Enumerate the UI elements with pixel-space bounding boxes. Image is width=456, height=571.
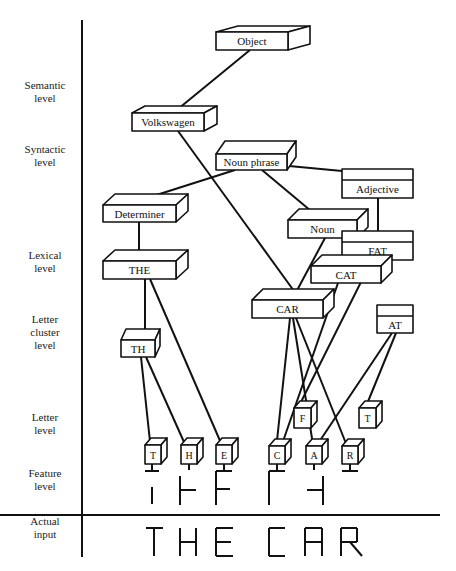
node-label: F <box>300 413 306 424</box>
node-label: CAT <box>336 269 357 281</box>
input-letter-H <box>180 528 196 556</box>
level-label-line: Lexical <box>5 249 85 262</box>
node-label: TH <box>131 343 146 355</box>
node-label: H <box>185 450 192 461</box>
level-label-line: Actual <box>5 515 85 528</box>
node-the: THE <box>103 250 188 279</box>
node-label: Determiner <box>114 208 164 220</box>
node-label: E <box>221 450 227 461</box>
level-label-line: input <box>5 528 85 541</box>
input-letter-R <box>341 528 362 556</box>
node-label: T <box>150 450 156 461</box>
node-cat: CAT <box>311 255 392 283</box>
level-label-syntactic: Syntacticlevel <box>5 143 85 169</box>
node-label: R <box>347 450 354 461</box>
connection-line <box>141 357 151 451</box>
feature-C <box>269 471 285 505</box>
level-label-letter: Letterlevel <box>5 411 85 437</box>
node-label: Noun phrase <box>224 156 280 168</box>
level-label-line: level <box>5 480 85 493</box>
node-label: A <box>310 450 318 461</box>
node-volkswagen: Volkswagen <box>132 106 217 131</box>
input-letter-A <box>305 528 322 556</box>
actual-input-letters <box>146 528 362 556</box>
node-letter-t2: T <box>359 401 382 428</box>
node-label: THE <box>129 264 151 276</box>
feature-T <box>145 471 159 504</box>
connection-line <box>178 50 250 109</box>
node-determiner: Determiner <box>103 194 188 222</box>
input-letter-T <box>146 528 163 556</box>
node-label: Noun <box>310 223 335 235</box>
node-car: CAR <box>252 289 334 318</box>
connection-line <box>367 333 396 404</box>
node-letter-c: C <box>269 439 291 464</box>
level-label-line: level <box>5 339 85 352</box>
node-label: AT <box>388 319 402 331</box>
feature-H <box>180 476 196 505</box>
input-letter-E <box>216 528 233 556</box>
node-letter-e: E <box>216 438 238 464</box>
node-letter-t: T <box>145 438 167 464</box>
input-letter-C <box>269 528 285 556</box>
node-label: CAR <box>276 303 299 315</box>
feature-level <box>145 464 358 505</box>
node-label: C <box>274 450 281 461</box>
level-label-semantic: Semanticlevel <box>5 79 85 105</box>
feature-E <box>216 471 232 505</box>
node-label: T <box>364 413 370 424</box>
level-label-line: Letter <box>5 313 85 326</box>
node-at: AT <box>377 305 413 333</box>
connection-line <box>146 357 188 451</box>
level-label-line: Feature <box>5 467 85 480</box>
level-label-line: Letter <box>5 411 85 424</box>
level-label-lexical: Lexicallevel <box>5 249 85 275</box>
level-label-line: level <box>5 262 85 275</box>
node-adjective: Adjective <box>342 169 413 198</box>
level-label-line: cluster <box>5 326 85 339</box>
level-label-line: Syntactic <box>5 143 85 156</box>
node-letter-r: R <box>342 439 364 464</box>
connection-line <box>150 279 224 450</box>
level-label-line: Semantic <box>5 79 85 92</box>
feature-A <box>307 476 323 505</box>
node-letter-f: F <box>294 401 317 428</box>
level-label-line: level <box>5 92 85 105</box>
level-label-letter-cluster: Letterclusterlevel <box>5 313 85 352</box>
node-letter-a: A <box>306 439 328 464</box>
node-letter-h: H <box>181 438 203 464</box>
nodes: ObjectVolkswagenNoun phraseAdjectiveDete… <box>103 26 413 464</box>
level-label-feature: Featurelevel <box>5 467 85 493</box>
node-label: Object <box>237 35 266 47</box>
level-label-line: level <box>5 424 85 437</box>
level-label-line: level <box>5 156 85 169</box>
node-noun-phrase: Noun phrase <box>216 141 296 170</box>
node-label: Adjective <box>356 183 399 195</box>
node-object: Object <box>216 26 310 50</box>
node-th: TH <box>121 329 160 357</box>
level-label-actual-input: Actualinput <box>5 515 85 541</box>
node-label: Volkswagen <box>141 116 195 128</box>
